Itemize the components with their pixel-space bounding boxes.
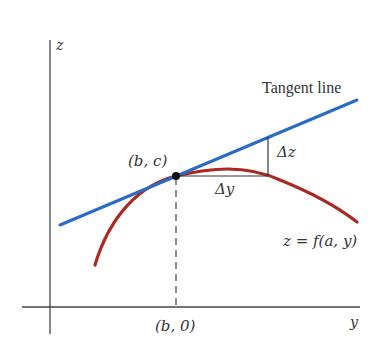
- projection-label: (b, 0): [155, 317, 196, 335]
- z-axis-label: z: [55, 37, 64, 53]
- tangent-line: [60, 100, 357, 225]
- tangent-point: [172, 172, 180, 180]
- y-axis-label: y: [349, 314, 359, 330]
- tangent-line-label: Tangent line: [262, 79, 341, 97]
- delta-y-label: Δy: [214, 180, 235, 198]
- tangent-line-diagram: z y Tangent line (b, c) Δz Δy z = f(a, y…: [0, 0, 382, 351]
- point-label: (b, c): [128, 152, 167, 170]
- delta-z-label: Δz: [276, 143, 296, 161]
- curve-label: z = f(a, y): [282, 232, 357, 250]
